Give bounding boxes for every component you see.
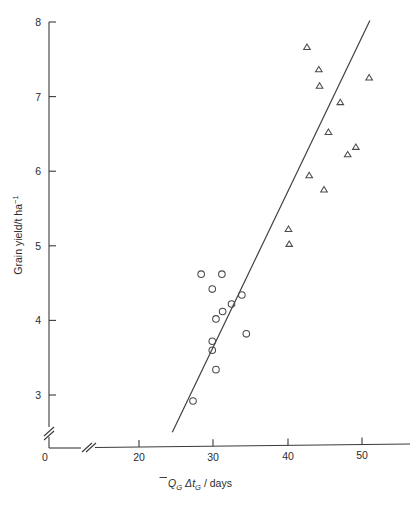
y-tick-label-5: 5 [35, 240, 41, 252]
x-tick-label-40: 40 [282, 450, 294, 462]
data-point-triangle [304, 44, 311, 49]
x-axis-title-q: Q [168, 477, 176, 489]
data-point-triangle [316, 66, 323, 71]
data-point-triangle [353, 144, 360, 149]
regression-line [172, 21, 370, 433]
triangle-series [285, 44, 372, 246]
data-point-triangle [366, 75, 373, 80]
data-point-triangle [325, 129, 332, 134]
data-point-triangle [286, 241, 293, 246]
y-tick-label-8: 8 [35, 16, 41, 28]
data-point-circle [213, 366, 220, 373]
svg-text:QG ΔtG / days: QG ΔtG / days [168, 477, 232, 492]
data-point-triangle [337, 99, 344, 104]
data-point-circle [190, 398, 197, 405]
data-point-triangle [306, 172, 313, 177]
scatter-plot: 8 7 6 5 4 3 0 20 30 40 50 Grain yield/t … [0, 0, 419, 505]
data-point-circle [219, 271, 226, 278]
data-point-circle [239, 292, 246, 299]
data-point-triangle [285, 226, 292, 231]
y-tick-label-7: 7 [35, 91, 41, 103]
origin-tick-label-0: 0 [42, 451, 48, 463]
data-point-circle [209, 286, 216, 293]
data-point-triangle [316, 83, 323, 88]
x-tick-label-30: 30 [207, 451, 219, 463]
x-tick-label-50: 50 [356, 449, 368, 461]
data-point-circle [209, 338, 216, 345]
data-point-triangle [321, 187, 328, 192]
y-tick-label-3: 3 [35, 389, 41, 401]
y-tick-label-6: 6 [35, 165, 41, 177]
data-point-circle [219, 308, 226, 315]
x-axis-line [95, 444, 410, 448]
y-axis-break-mark-upper [44, 427, 54, 436]
data-point-circle [198, 271, 205, 278]
chart-figure: 8 7 6 5 4 3 0 20 30 40 50 Grain yield/t … [0, 0, 419, 505]
data-point-circle [243, 331, 250, 338]
data-point-circle [213, 316, 220, 323]
x-axis-title: QG ΔtG / days [160, 477, 232, 492]
x-axis-title-tail: / days [204, 477, 232, 489]
x-tick-label-20: 20 [133, 451, 145, 463]
data-point-triangle [344, 151, 351, 156]
y-axis-title: Grain yield/t ha−1 [11, 195, 24, 274]
y-tick-label-4: 4 [35, 314, 41, 326]
